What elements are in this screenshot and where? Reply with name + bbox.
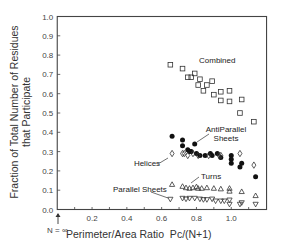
data-point — [180, 143, 185, 148]
y-tick-label: 0.5 — [42, 109, 54, 118]
y-axis-title-line2: that Participate — [20, 77, 32, 147]
data-point — [170, 134, 175, 139]
data-point — [192, 141, 197, 146]
y-tick-label: 0.9 — [42, 32, 54, 41]
x-axis-title: Perimeter/Area Ratio Pc/(N+1) — [66, 228, 212, 240]
y-tick-label: 0.6 — [42, 90, 54, 99]
label-turns: Turns — [201, 172, 221, 181]
label-antiparallel-sheets: AntiParallel — [206, 125, 247, 134]
x-tick-label: 0.2 — [86, 214, 98, 223]
x-tick-label: 1.0 — [226, 214, 238, 223]
y-tick-label: 0.2 — [42, 167, 54, 176]
scatter-chart: 0.00.10.20.30.40.50.60.70.80.91.0 0.20.4… — [0, 0, 282, 251]
label-parallel-sheets: Parallel Sheets — [113, 185, 167, 194]
label-helices: Helices — [134, 159, 160, 168]
y-tick-label: 0.4 — [42, 128, 54, 137]
y-tick-label: 0.8 — [42, 51, 54, 60]
data-point — [180, 138, 185, 143]
y-tick-label: 0.3 — [42, 148, 54, 157]
label-combined: Combined — [199, 56, 235, 65]
data-point — [229, 161, 234, 166]
data-point — [237, 165, 242, 170]
label-antiparallel-sheets-line2: Sheets — [214, 134, 239, 143]
data-point — [253, 174, 258, 179]
y-tick-label: 1.0 — [42, 13, 54, 22]
x-tick-label: 0.4 — [121, 214, 133, 223]
y-tick-label: 0.7 — [42, 70, 54, 79]
x-tick-label: 0.6 — [156, 214, 168, 223]
y-tick-label: 0.1 — [42, 186, 54, 195]
n-infinity-label: N = ∞ — [47, 226, 68, 235]
y-tick-label: 0.0 — [42, 206, 54, 215]
x-tick-label: 0.8 — [191, 214, 203, 223]
y-axis-title-line1: Fraction of Total Number of Residues — [8, 25, 20, 198]
